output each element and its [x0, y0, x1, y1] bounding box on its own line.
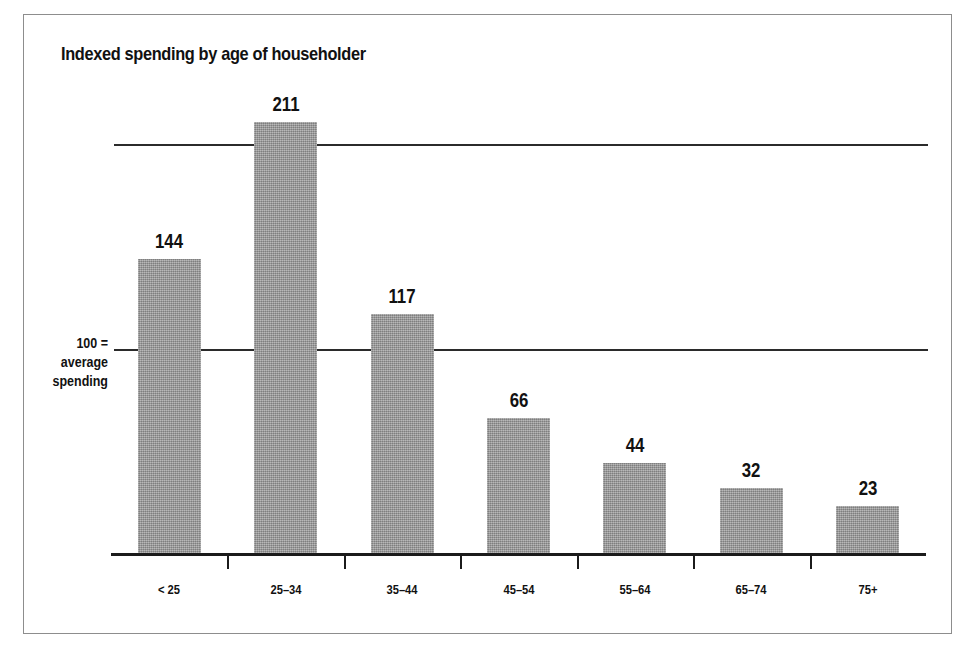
baseline-annotation-line-2: average — [36, 353, 108, 372]
gridline-200 — [114, 144, 928, 146]
category-label: 45–54 — [471, 582, 566, 597]
category-label: 25–34 — [238, 582, 333, 597]
bar — [836, 506, 899, 553]
bar-value-label: 23 — [830, 477, 906, 500]
gridline-100 — [114, 349, 928, 351]
bar — [138, 259, 201, 553]
bar — [254, 122, 317, 553]
x-axis-tick — [693, 554, 695, 569]
x-axis-line — [111, 553, 926, 556]
category-label: 55–64 — [588, 582, 683, 597]
bar — [720, 488, 783, 553]
x-axis-tick — [344, 554, 346, 569]
x-axis-tick — [460, 554, 462, 569]
category-label: 75+ — [820, 582, 915, 597]
baseline-annotation-line-3: spending — [36, 372, 108, 391]
bar-value-label: 44 — [597, 434, 673, 457]
x-axis-tick — [227, 554, 229, 569]
chart-figure-frame: Indexed spending by age of householder 1… — [23, 14, 952, 634]
baseline-annotation-line-1: 100 = — [36, 334, 108, 353]
baseline-annotation: 100 = average spending — [24, 334, 108, 391]
x-axis-tick — [577, 554, 579, 569]
bar-value-label: 66 — [481, 389, 557, 412]
bar-value-label: 144 — [131, 230, 207, 253]
plot-area: 14421111766443223 < 2525–3435–4445–5455–… — [24, 15, 953, 635]
bar-value-label: 211 — [248, 93, 324, 116]
category-label: 35–44 — [355, 582, 450, 597]
bar-value-label: 117 — [364, 285, 440, 308]
bar-value-label: 32 — [714, 459, 790, 482]
category-label: 65–74 — [704, 582, 799, 597]
category-label: < 25 — [122, 582, 217, 597]
bar — [487, 418, 550, 553]
bar — [603, 463, 666, 553]
x-axis-tick — [810, 554, 812, 569]
bar — [371, 314, 434, 553]
